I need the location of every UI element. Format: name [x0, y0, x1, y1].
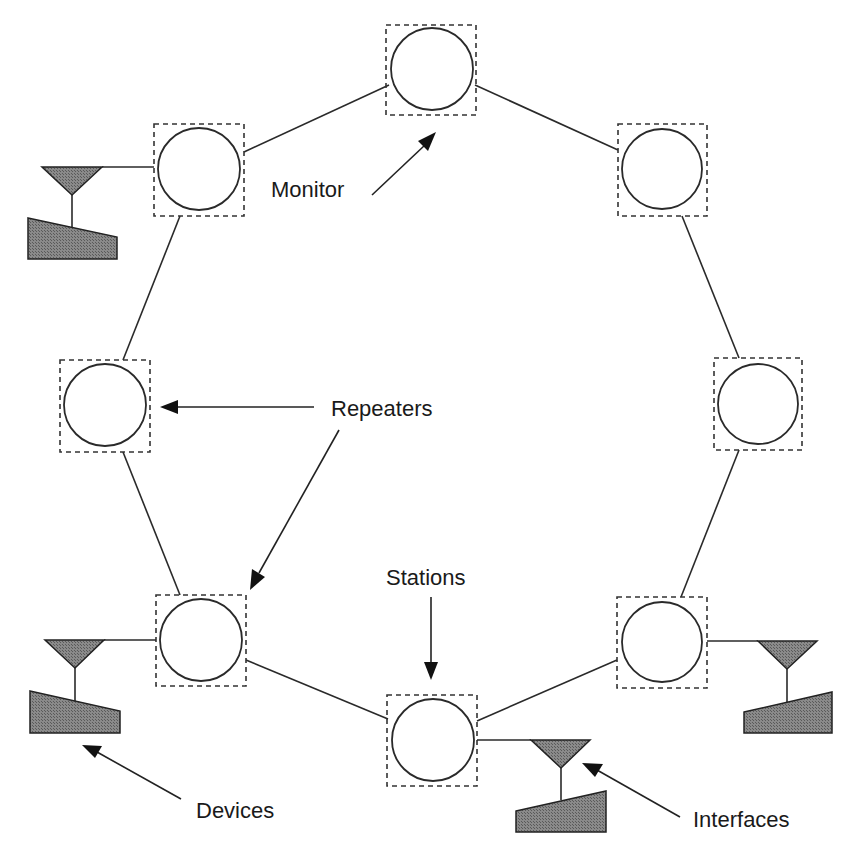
repeater-circle	[622, 129, 702, 209]
repeater-circle	[158, 128, 240, 210]
repeater-circle	[160, 599, 242, 681]
link-n5-n8	[681, 450, 739, 597]
node-n1-top	[386, 25, 476, 115]
arrow-devices	[82, 745, 181, 799]
label-interfaces: Interfaces	[693, 807, 790, 832]
arrow-head-icon	[82, 745, 102, 758]
link-n2-n4	[123, 216, 180, 360]
link-n1-n3	[475, 85, 618, 150]
link-n6-n7	[246, 660, 388, 719]
node-n7-bottom	[387, 695, 477, 786]
arrow-head-icon	[424, 662, 438, 680]
label-stations: Stations	[386, 565, 466, 590]
interface-icon	[758, 641, 817, 669]
ring-network-diagram: Monitor Repeaters Stations Devices Inter…	[0, 0, 857, 852]
node-n8-lower-right	[617, 597, 707, 688]
repeater-circle	[64, 364, 146, 446]
node-n6-lower-left	[156, 595, 246, 686]
attachment-n7	[477, 740, 606, 832]
repeater-circle	[392, 699, 474, 781]
attachment-n2	[28, 167, 154, 259]
arrow-head-icon	[160, 400, 178, 414]
repeater-circle	[718, 364, 798, 444]
label-devices: Devices	[196, 798, 274, 823]
arrow-repeaters-left	[160, 400, 314, 414]
repeater-circle	[622, 602, 702, 682]
link-n4-n6	[123, 452, 180, 595]
node-n3-upper-right	[618, 124, 707, 216]
interface-icon	[45, 640, 104, 668]
arrow-head-icon	[582, 763, 603, 777]
node-n4-left	[60, 360, 150, 452]
attachment-n6	[30, 640, 156, 733]
node-n2-upper-left	[154, 124, 244, 216]
link-n1-n2	[244, 85, 389, 152]
arrow-stations	[424, 597, 438, 680]
arrow-repeaters-lower	[250, 430, 339, 590]
device-icon	[744, 692, 832, 733]
repeater-circle	[391, 28, 473, 110]
link-n3-n5	[682, 216, 739, 358]
arrow-monitor	[372, 132, 436, 195]
link-n7-n8	[477, 660, 617, 721]
interface-icon	[42, 167, 102, 195]
node-n5-right	[714, 358, 802, 450]
attachment-n8	[707, 641, 832, 733]
label-monitor: Monitor	[271, 177, 344, 202]
label-repeaters: Repeaters	[331, 396, 433, 421]
arrow-head-icon	[250, 569, 265, 590]
interface-icon	[531, 740, 590, 768]
